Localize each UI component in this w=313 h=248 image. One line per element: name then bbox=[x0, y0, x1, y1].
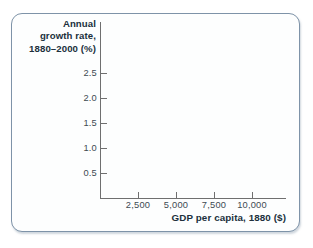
y-tick-label: 2.0 bbox=[37, 93, 97, 103]
y-tick-label: 0.5 bbox=[37, 168, 97, 178]
y-axis-title-line-1: Annual bbox=[12, 18, 96, 30]
y-tick-label: 1.0 bbox=[37, 143, 97, 153]
x-tick-label: 10,000 bbox=[222, 200, 282, 210]
x-axis-title: GDP per capita, 1880 ($) bbox=[106, 212, 286, 223]
y-axis-title: Annual growth rate, 1880–2000 (%) bbox=[12, 18, 96, 55]
y-axis-title-line-3: 1880–2000 (%) bbox=[12, 43, 96, 55]
y-axis-title-line-2: growth rate, bbox=[12, 30, 96, 42]
plot-area bbox=[101, 22, 286, 198]
y-tick-label: 1.5 bbox=[37, 118, 97, 128]
chart-canvas: Annual growth rate, 1880–2000 (%) 2.5 2.… bbox=[0, 0, 313, 248]
y-tick-label: 2.5 bbox=[37, 68, 97, 78]
